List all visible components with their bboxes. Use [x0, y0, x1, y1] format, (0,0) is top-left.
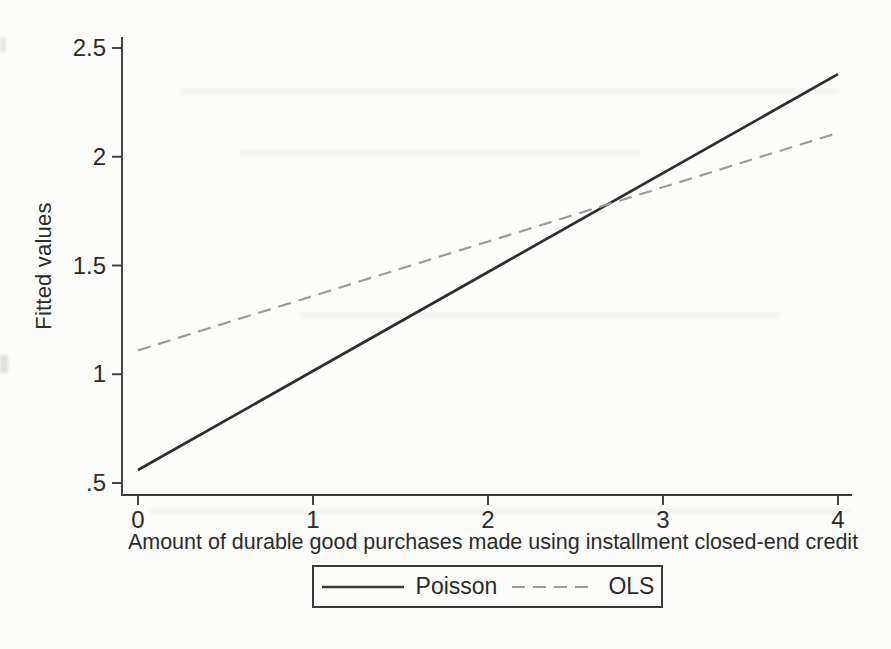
ols-line [138, 133, 838, 351]
legend-label-ols: OLS [608, 575, 654, 598]
y-tick-label: 1 [93, 360, 106, 387]
legend-item-ols: OLS [511, 575, 654, 598]
figure: .511.522.501234 Fitted values Amount of … [0, 0, 891, 649]
x-tick-label: 4 [831, 506, 844, 533]
legend-item-poisson: Poisson [321, 575, 498, 598]
ols-dashed-line-sample [511, 583, 597, 591]
x-tick-label: 2 [481, 506, 494, 533]
legend: Poisson OLS [312, 565, 663, 608]
y-tick-label: 1.5 [73, 252, 106, 279]
legend-label-poisson: Poisson [416, 575, 498, 598]
poisson-solid-line-sample [321, 583, 405, 591]
axis-spines [122, 37, 852, 495]
x-tick-label: 0 [131, 506, 144, 533]
y-tick-label: .5 [86, 469, 106, 496]
x-tick-label: 3 [656, 506, 669, 533]
y-tick-label: 2 [93, 143, 106, 170]
x-tick-label: 1 [306, 506, 319, 533]
x-axis-title: Amount of durable good purchases made us… [128, 530, 858, 555]
poisson-line [138, 74, 838, 470]
y-tick-label: 2.5 [73, 34, 106, 61]
y-axis-title: Fitted values [31, 202, 57, 329]
